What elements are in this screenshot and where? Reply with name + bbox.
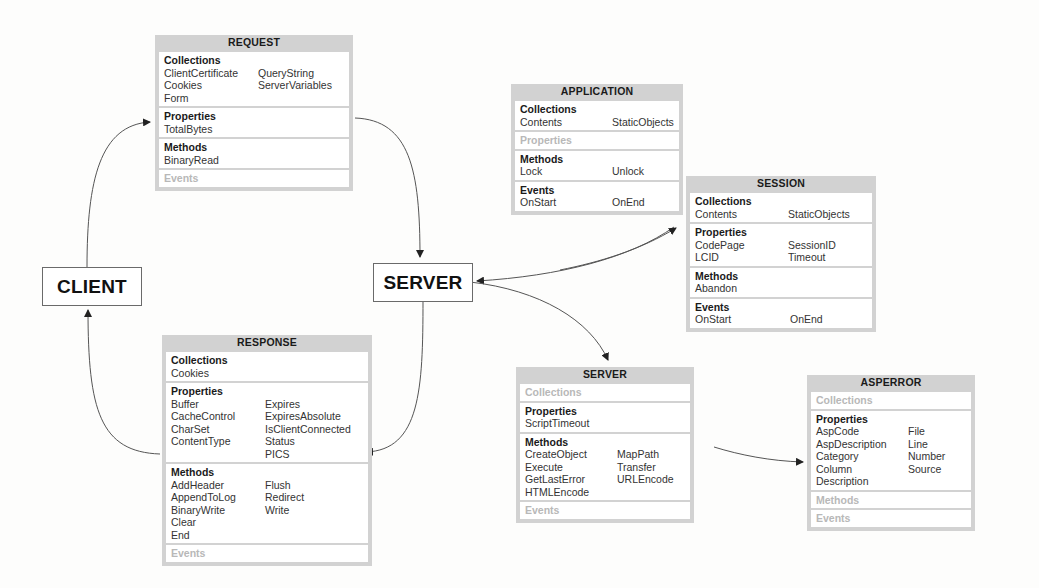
list-item: ContentType	[171, 435, 265, 448]
list-item: OnStart	[695, 313, 790, 326]
section-heading: Properties	[171, 385, 363, 398]
list-item: Unlock	[612, 165, 644, 178]
list-item: HTMLEncode	[525, 486, 617, 499]
list-item: Contents	[695, 208, 788, 221]
session-object: SESSION Collections Contents StaticObjec…	[686, 176, 876, 332]
asperror-collections: Collections	[811, 392, 971, 409]
session-collections: Collections Contents StaticObjects	[690, 193, 872, 222]
section-heading: Events	[695, 301, 867, 314]
asperror-events: Events	[811, 510, 971, 527]
session-methods: Methods Abandon	[690, 268, 872, 297]
server-collections: Collections	[520, 384, 690, 401]
list-item: Execute	[525, 461, 617, 474]
request-title: REQUEST	[159, 35, 349, 50]
application-collections: Collections Contents StaticObjects	[515, 101, 679, 130]
list-item: GetLastError	[525, 473, 617, 486]
response-methods: Methods AddHeader AppendToLog BinaryWrit…	[166, 464, 368, 543]
session-title: SESSION	[690, 176, 872, 191]
arrow-server-to-session	[560, 228, 676, 270]
list-item: PICS	[265, 448, 351, 461]
list-item: Line	[908, 438, 945, 451]
list-item: BinaryRead	[164, 154, 344, 167]
list-item: Lock	[520, 165, 612, 178]
list-item: URLEncode	[617, 473, 674, 486]
list-item: IsClientConnected	[265, 423, 351, 436]
list-item: AddHeader	[171, 479, 265, 492]
response-collections: Collections Cookies	[166, 352, 368, 381]
list-item: Redirect	[265, 491, 304, 504]
asperror-object: ASPERROR Collections Properties AspCode …	[807, 375, 975, 531]
server-events: Events	[520, 502, 690, 519]
arrow-session-to-server	[477, 227, 674, 281]
client-label: CLIENT	[57, 276, 127, 298]
arrow-server-to-server-object	[470, 282, 608, 360]
application-methods: Methods Lock Unlock	[515, 151, 679, 180]
section-heading: Collections	[816, 394, 966, 407]
list-item: TotalBytes	[164, 123, 344, 136]
section-heading: Methods	[816, 494, 966, 507]
application-events: Events OnStart OnEnd	[515, 182, 679, 211]
list-item: Status	[265, 435, 351, 448]
response-object: RESPONSE Collections Cookies Properties …	[162, 335, 372, 566]
asperror-methods: Methods	[811, 492, 971, 509]
list-item: OnStart	[520, 196, 612, 209]
response-properties: Properties Buffer CacheControl CharSet C…	[166, 383, 368, 462]
list-item: LCID	[695, 251, 788, 264]
list-item: Clear	[171, 516, 265, 529]
list-item: Form	[164, 92, 258, 105]
list-item: StaticObjects	[612, 116, 674, 129]
list-item: ScriptTimeout	[525, 417, 685, 430]
list-item: Contents	[520, 116, 612, 129]
client-node: CLIENT	[42, 267, 142, 306]
request-properties: Properties TotalBytes	[159, 108, 349, 137]
request-methods: Methods BinaryRead	[159, 139, 349, 168]
list-item: Category	[816, 450, 908, 463]
section-heading: Properties	[816, 413, 966, 426]
section-heading: Properties	[695, 226, 867, 239]
list-item: Source	[908, 463, 945, 476]
list-item: Cookies	[171, 367, 363, 380]
application-properties: Properties	[515, 132, 679, 149]
list-item: CacheControl	[171, 410, 265, 423]
section-heading: Collections	[525, 386, 685, 399]
request-object: REQUEST Collections ClientCertificate Co…	[155, 35, 353, 191]
server-properties: Properties ScriptTimeout	[520, 403, 690, 432]
list-item: End	[171, 529, 265, 542]
list-item: OnEnd	[612, 196, 645, 209]
section-heading: Events	[816, 512, 966, 525]
list-item: AspDescription	[816, 438, 908, 451]
section-heading: Methods	[695, 270, 867, 283]
section-heading: Collections	[171, 354, 363, 367]
server-methods: Methods CreateObject Execute GetLastErro…	[520, 434, 690, 501]
section-heading: Methods	[520, 153, 674, 166]
list-item: Write	[265, 504, 304, 517]
list-item: Abandon	[695, 282, 867, 295]
server-object-title: SERVER	[520, 367, 690, 382]
asperror-title: ASPERROR	[811, 375, 971, 390]
section-heading: Properties	[164, 110, 344, 123]
list-item: Column	[816, 463, 908, 476]
list-item: Description	[816, 475, 908, 488]
list-item: SessionID	[788, 239, 836, 252]
list-item: MapPath	[617, 448, 674, 461]
session-properties: Properties CodePage LCID SessionID Timeo…	[690, 224, 872, 266]
server-node: SERVER	[373, 263, 473, 302]
list-item: QueryString	[258, 67, 332, 80]
list-item: OnEnd	[790, 313, 823, 326]
list-item: StaticObjects	[788, 208, 850, 221]
list-item: CreateObject	[525, 448, 617, 461]
list-item: AspCode	[816, 425, 908, 438]
list-item: Flush	[265, 479, 304, 492]
response-events: Events	[166, 545, 368, 562]
server-object: SERVER Collections Properties ScriptTime…	[516, 367, 694, 523]
section-heading: Methods	[164, 141, 344, 154]
list-item: AppendToLog	[171, 491, 265, 504]
arrow-server-to-asperror	[714, 447, 803, 462]
section-heading: Methods	[171, 466, 363, 479]
section-heading: Collections	[164, 54, 344, 67]
list-item: Number	[908, 450, 945, 463]
list-item: BinaryWrite	[171, 504, 265, 517]
application-title: APPLICATION	[515, 84, 679, 99]
list-item: ClientCertificate	[164, 67, 258, 80]
list-item: Expires	[265, 398, 351, 411]
